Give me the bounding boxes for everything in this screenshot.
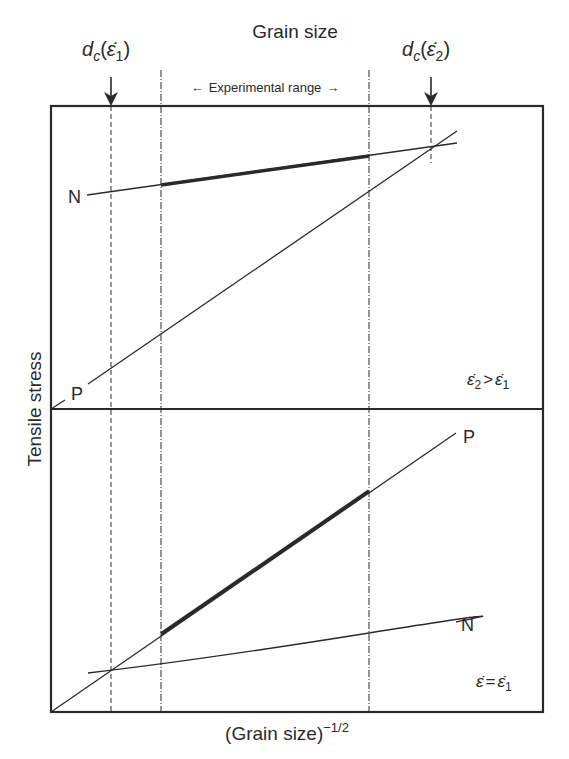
lower-p-label: P: [463, 427, 475, 447]
grain-size-stress-diagram: Grain size dc(ε̇1) dc(ε̇2) ←Experimental…: [0, 0, 569, 759]
lower-n-label: N: [461, 615, 474, 635]
dc1-down-arrow-icon: [104, 77, 118, 106]
upper-p-label: P: [71, 384, 83, 404]
top-title: Grain size: [252, 21, 338, 42]
dc2-down-arrow-icon: [424, 77, 438, 106]
right-arrow-icon: →: [326, 80, 339, 95]
upper-condition-label: ε̇2>ε̇1: [467, 370, 510, 392]
y-axis-label: Tensile stress: [24, 351, 45, 466]
x-axis-label: (Grain size)−1/2: [225, 720, 349, 744]
lower-condition-label: ε̇=ε̇1: [476, 672, 512, 694]
dc1-label: dc(ε̇1): [82, 38, 130, 64]
lower-n-line: [88, 616, 483, 673]
left-arrow-icon: ←: [191, 80, 204, 95]
upper-n-label: N: [68, 187, 81, 207]
upper-n-line-experimental-bold: [161, 156, 369, 185]
upper-p-line-origin-segment: [51, 400, 65, 409]
experimental-range-label: ←Experimental range→: [191, 80, 340, 95]
lower-p-line-experimental-bold: [161, 491, 369, 634]
dc2-label: dc(ε̇2): [402, 38, 450, 64]
